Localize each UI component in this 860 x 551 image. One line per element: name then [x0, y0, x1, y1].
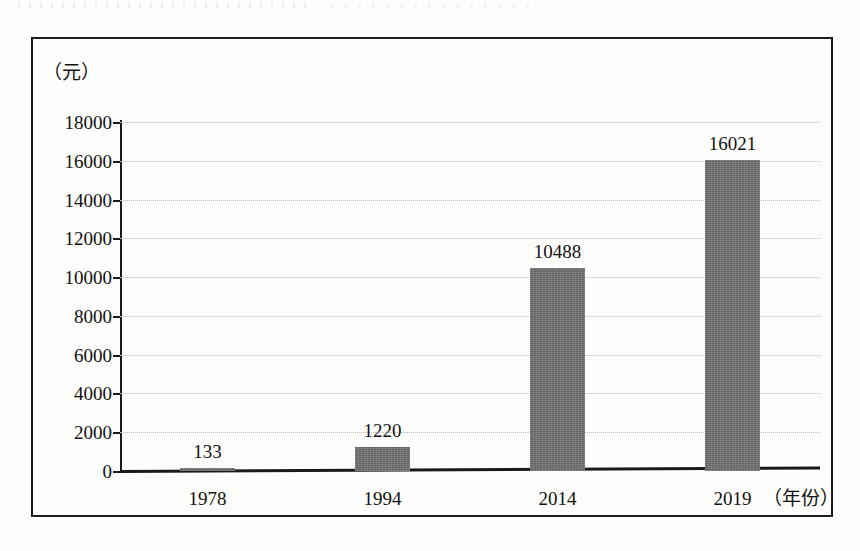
y-axis-tick-label: 2000 [74, 423, 112, 442]
y-axis-tick-mark [113, 122, 120, 124]
y-axis-tick-label-group: 0200040006000800010000120001400016000180… [36, 0, 112, 551]
plot-area [120, 122, 820, 471]
x-axis-tick-label: 1978 [148, 489, 268, 508]
bar [705, 160, 760, 471]
y-axis-tick-mark [113, 355, 120, 357]
bar-value-label: 16021 [673, 134, 793, 153]
y-axis-tick-mark [113, 238, 120, 240]
y-axis-tick-label: 18000 [65, 113, 113, 132]
gridline [120, 122, 820, 123]
bar-value-label: 1220 [323, 421, 443, 440]
scanned-page: （元） 020004000600080001000012000140001600… [0, 0, 860, 551]
y-axis-tick-label: 10000 [65, 268, 113, 287]
x-axis-tick-label: 1994 [323, 489, 443, 508]
y-axis-tick-mark [113, 316, 120, 318]
y-axis-tick-label: 0 [103, 462, 113, 481]
y-axis-tick-mark [113, 393, 120, 395]
scan-artifact-secondary [330, 3, 540, 8]
y-axis-tick-mark [113, 432, 120, 434]
bar [355, 447, 410, 471]
y-axis-tick-mark [113, 161, 120, 163]
y-axis-tick-label: 16000 [65, 152, 113, 171]
y-axis-tick-label: 6000 [74, 346, 112, 365]
y-axis-tick-mark [113, 200, 120, 202]
y-axis-tick-label: 8000 [74, 307, 112, 326]
x-axis-tick-label: 2014 [498, 489, 618, 508]
bar [180, 468, 235, 471]
bar-value-label: 133 [148, 442, 268, 461]
y-axis-tick-label: 4000 [74, 384, 112, 403]
bar-value-label: 10488 [498, 242, 618, 261]
y-axis-tick-label: 14000 [65, 191, 113, 210]
y-axis-tick-label: 12000 [65, 229, 113, 248]
y-axis-tick-mark [113, 471, 120, 473]
x-axis-caption: （年份） [763, 489, 839, 508]
y-axis-tick-mark [113, 277, 120, 279]
bar [530, 268, 585, 471]
